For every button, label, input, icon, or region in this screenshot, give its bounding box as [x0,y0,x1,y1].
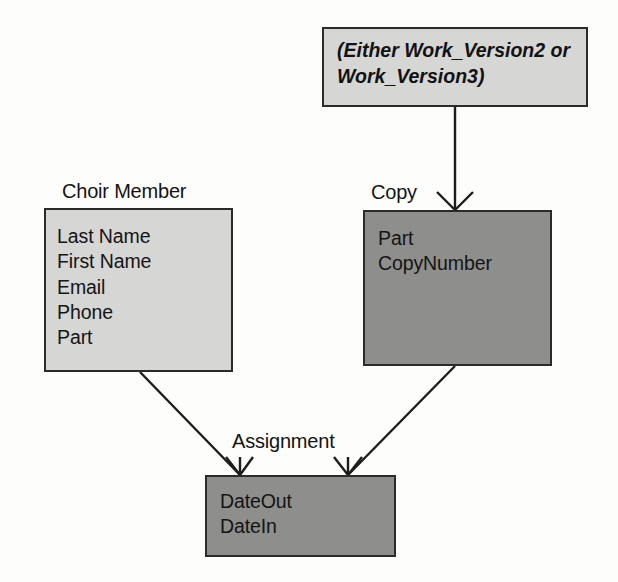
attribute-choir-member-2: Email [57,275,151,300]
attribute-choir-member-1: First Name [57,249,151,274]
attribute-assignment-1: DateIn [220,514,292,539]
work-version-note-text: (Either Work_Version2 or Work_Version3) [337,38,570,90]
attribute-choir-member-4: Part [57,325,151,350]
work-version-note-line1: (Either Work_Version2 or [337,38,570,64]
relationship-line-workversion-copy[interactable] [437,107,473,210]
er-diagram-canvas: (Either Work_Version2 or Work_Version3) … [0,0,618,582]
work-version-note-line2: Work_Version3) [337,64,570,90]
attribute-assignment-0: DateOut [220,489,292,514]
relationship-line-copy-assignment[interactable] [334,366,455,475]
attribute-list-choir-member: Last Name First Name Email Phone Part [57,224,151,351]
entity-label-copy: Copy [371,181,417,204]
attribute-list-copy: Part CopyNumber [378,226,492,277]
entity-label-choir-member: Choir Member [62,180,186,203]
attribute-choir-member-0: Last Name [57,224,151,249]
attribute-choir-member-3: Phone [57,300,151,325]
attribute-copy-0: Part [378,226,492,251]
attribute-copy-1: CopyNumber [378,251,492,276]
relationship-line-choirmember-assignment[interactable] [140,372,253,475]
attribute-list-assignment: DateOut DateIn [220,489,292,540]
entity-label-assignment: Assignment [232,430,335,453]
